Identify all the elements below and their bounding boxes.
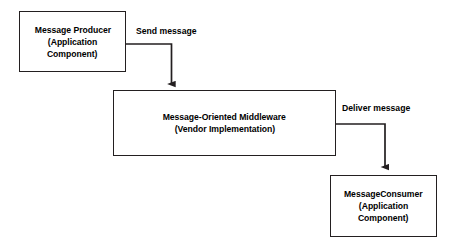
node-label-line: (Application [48, 36, 97, 48]
node-label-line: Component) [358, 212, 408, 224]
edge-label-deliver-message: Deliver message [342, 102, 410, 114]
node-label-line: MessageConsumer [344, 188, 423, 200]
node-message-producer[interactable]: Message Producer (Application Component) [19, 11, 126, 72]
node-label-line: (Application [359, 200, 408, 212]
node-label-line: Message Producer [34, 24, 110, 36]
diagram-canvas: Message Producer (Application Component)… [0, 0, 455, 245]
node-message-consumer[interactable]: MessageConsumer (Application Component) [330, 175, 437, 237]
node-label-line: Message-Oriented Middleware [163, 111, 286, 123]
node-message-oriented-middleware[interactable]: Message-Oriented Middleware (Vendor Impl… [113, 90, 336, 156]
edge-label-send-message: Send message [136, 25, 197, 37]
edge-send-message [126, 44, 172, 84]
node-label-line: Component) [47, 48, 97, 60]
node-label-line: (Vendor Implementation) [174, 123, 274, 135]
edge-deliver-message [336, 124, 385, 167]
